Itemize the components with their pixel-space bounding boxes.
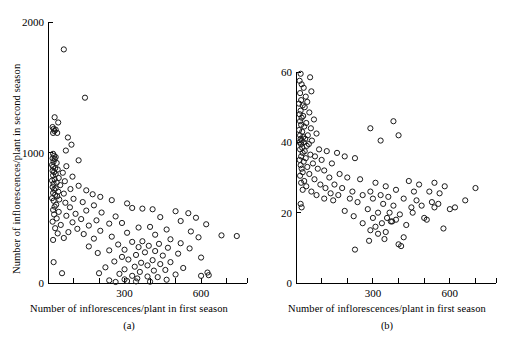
data-point — [76, 158, 81, 163]
data-point — [158, 261, 163, 266]
data-point — [58, 222, 63, 227]
data-point — [328, 191, 333, 196]
data-point — [355, 200, 360, 205]
data-point — [314, 192, 319, 197]
data-point — [332, 182, 337, 187]
data-point — [375, 210, 380, 215]
data-point — [322, 196, 327, 201]
data-point — [300, 187, 305, 192]
data-point — [96, 271, 101, 276]
data-point — [391, 119, 396, 124]
data-point — [150, 258, 155, 263]
data-point — [178, 218, 183, 223]
data-point — [393, 187, 398, 192]
data-point — [186, 211, 191, 216]
data-point — [136, 225, 141, 230]
data-point — [80, 199, 85, 204]
data-point — [309, 89, 314, 94]
data-point — [176, 251, 181, 256]
data-point — [441, 226, 446, 231]
data-point — [91, 236, 96, 241]
data-point — [147, 224, 152, 229]
data-point — [63, 200, 68, 205]
data-point — [137, 269, 142, 274]
data-point — [168, 237, 173, 242]
data-point — [397, 212, 402, 217]
data-point — [382, 236, 387, 241]
data-point — [63, 148, 68, 153]
data-point — [60, 170, 65, 175]
data-point — [73, 211, 78, 216]
data-point — [322, 168, 327, 173]
data-point — [107, 248, 112, 253]
data-point — [86, 244, 91, 249]
data-point — [308, 75, 313, 80]
data-point — [95, 250, 100, 255]
data-point — [368, 228, 373, 233]
data-point — [107, 278, 112, 283]
data-point — [136, 245, 141, 250]
data-point — [107, 221, 112, 226]
y-tick-label: 20 — [281, 207, 293, 219]
data-point — [298, 201, 303, 206]
data-point — [98, 194, 103, 199]
data-point — [188, 229, 193, 234]
data-point — [58, 183, 63, 188]
data-point — [360, 221, 365, 226]
data-point — [94, 218, 99, 223]
data-point — [404, 222, 409, 227]
data-point — [298, 108, 303, 113]
data-point — [347, 196, 352, 201]
data-point — [158, 215, 163, 220]
data-point — [366, 238, 371, 243]
data-point — [69, 142, 74, 147]
data-point — [66, 230, 71, 235]
panel-caption-b: (b) — [258, 320, 516, 331]
data-point — [299, 205, 304, 210]
data-point — [124, 230, 129, 235]
data-point — [419, 203, 424, 208]
data-point — [51, 237, 56, 242]
data-point — [86, 223, 91, 228]
data-point — [198, 255, 203, 260]
data-point — [315, 166, 320, 171]
data-point — [91, 203, 96, 208]
data-point — [318, 182, 323, 187]
data-point — [53, 226, 58, 231]
data-point — [113, 214, 118, 219]
data-point — [142, 250, 147, 255]
data-point — [56, 120, 61, 125]
data-point — [305, 164, 310, 169]
data-point — [133, 252, 138, 257]
data-point — [379, 221, 384, 226]
data-point — [81, 231, 86, 236]
data-point — [432, 180, 437, 185]
x-axis-label-b: Number of inflorescences/plant in first … — [258, 303, 516, 314]
data-point — [76, 183, 81, 188]
data-point — [311, 117, 316, 122]
data-point — [342, 208, 347, 213]
data-point — [365, 207, 370, 212]
data-point — [109, 198, 114, 203]
data-point — [178, 241, 183, 246]
data-point — [130, 273, 135, 278]
data-point — [90, 192, 95, 197]
data-point — [99, 210, 104, 215]
data-point — [84, 188, 89, 193]
data-point — [156, 241, 161, 246]
data-point — [122, 247, 127, 252]
data-point — [352, 156, 357, 161]
data-point — [312, 154, 317, 159]
data-point — [119, 254, 124, 259]
data-point — [345, 175, 350, 180]
data-point — [168, 260, 173, 265]
data-point — [122, 267, 127, 272]
data-point — [50, 219, 55, 224]
data-point — [307, 171, 312, 176]
data-point — [391, 203, 396, 208]
data-point — [331, 198, 336, 203]
data-point — [112, 259, 117, 264]
data-point — [71, 196, 76, 201]
data-point — [437, 191, 442, 196]
data-point — [310, 161, 315, 166]
